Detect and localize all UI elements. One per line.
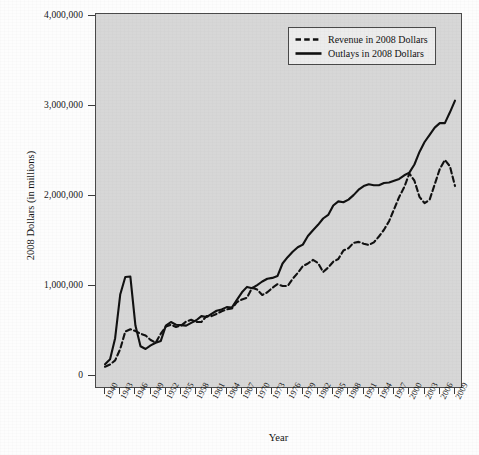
series-line-outlays: [105, 101, 455, 365]
legend-label-outlays: Outlays in 2008 Dollars: [328, 48, 424, 59]
legend-item-revenue: Revenue in 2008 Dollars: [295, 32, 428, 46]
chart-legend: Revenue in 2008 Dollars Outlays in 2008 …: [288, 27, 436, 65]
y-axis-tick-label: 3,000,000: [44, 100, 83, 110]
y-axis-tick-label: 2,000,000: [44, 190, 83, 200]
plot-area: [95, 13, 462, 388]
y-axis-tick: [88, 15, 95, 16]
y-axis-tick: [88, 285, 95, 286]
y-axis-tick: [88, 375, 95, 376]
legend-item-outlays: Outlays in 2008 Dollars: [295, 46, 428, 60]
x-axis-title: Year: [95, 432, 462, 443]
y-axis: 2008 Dollars (in millions) 01,000,0002,0…: [0, 0, 95, 401]
y-axis-tick: [88, 195, 95, 196]
y-axis-tick: [88, 105, 95, 106]
series-canvas: [96, 14, 461, 387]
series-line-revenue: [105, 160, 455, 367]
y-axis-tick-label: 4,000,000: [44, 10, 83, 20]
chart-figure: 2008 Dollars (in millions) 01,000,0002,0…: [0, 0, 479, 455]
y-axis-tick-label: 0: [78, 370, 83, 380]
y-axis-title: 2008 Dollars (in millions): [25, 116, 36, 296]
x-axis: 1940194319461949195219551958196119641967…: [95, 388, 462, 455]
legend-label-revenue: Revenue in 2008 Dollars: [328, 34, 428, 45]
y-axis-tick-label: 1,000,000: [44, 280, 83, 290]
solid-line-icon: [295, 48, 322, 59]
dashed-line-icon: [295, 34, 322, 45]
